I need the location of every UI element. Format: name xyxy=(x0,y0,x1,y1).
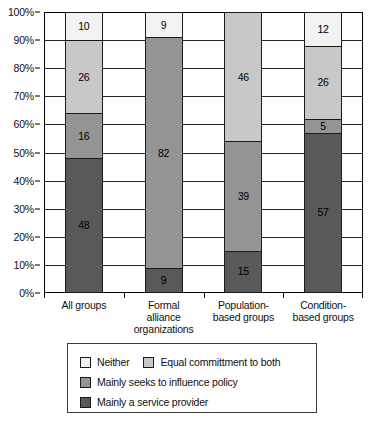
bar-segment[interactable]: 15 xyxy=(224,251,262,293)
bars-layer: 4816261098291539465752612 xyxy=(44,12,363,293)
bar-segment[interactable]: 9 xyxy=(145,12,183,37)
bar-stack: 5752612 xyxy=(304,12,342,293)
bar-segment-value: 26 xyxy=(78,72,89,83)
bar-segment[interactable]: 12 xyxy=(304,12,342,46)
bar-segment-value: 82 xyxy=(158,148,169,159)
x-tick-mark xyxy=(204,293,205,298)
bar-segment-value: 26 xyxy=(317,77,328,88)
y-tick-mark xyxy=(35,68,40,69)
y-tick-label: 90% xyxy=(14,35,34,46)
legend-swatch-service-provider xyxy=(80,397,91,408)
legend-label-neither: Neither xyxy=(97,356,129,368)
bar-segment-value: 10 xyxy=(78,21,89,32)
bar-group[interactable]: 48162610 xyxy=(65,12,103,293)
y-tick-mark xyxy=(35,180,40,181)
bar-segment-value: 15 xyxy=(238,266,249,277)
y-tick-mark xyxy=(35,96,40,97)
y-tick-label: 40% xyxy=(14,175,34,186)
x-tick-mark xyxy=(283,293,284,298)
bar-stack: 48162610 xyxy=(65,12,103,293)
y-tick-label: 60% xyxy=(14,119,34,130)
bar-segment[interactable]: 26 xyxy=(304,46,342,119)
bar-segment[interactable]: 82 xyxy=(145,37,183,267)
bar-segment-value: 12 xyxy=(317,24,328,35)
bar-segment[interactable]: 9 xyxy=(145,268,183,293)
x-axis-label: Condition-based groups xyxy=(283,299,363,323)
y-tick-mark xyxy=(35,40,40,41)
bar-segment[interactable]: 10 xyxy=(65,12,103,40)
legend-label-influence-policy: Mainly seeks to influence policy xyxy=(97,376,238,388)
legend-swatch-equal-commitment xyxy=(143,357,154,368)
x-tick-mark xyxy=(362,293,363,298)
bar-group[interactable]: 5752612 xyxy=(304,12,342,293)
legend-entry-service-provider: Mainly a service provider xyxy=(80,396,208,408)
legend-entry-neither: Neither xyxy=(80,356,129,368)
y-tick-label: 100% xyxy=(8,7,34,18)
x-tick-mark xyxy=(44,293,45,298)
legend-entry-equal-commitment: Equal committment to both xyxy=(143,356,280,368)
y-tick-label: 80% xyxy=(14,63,34,74)
bar-segment-value: 16 xyxy=(78,131,89,142)
chart-legend: Neither Equal committment to both Mainly… xyxy=(67,343,317,413)
y-tick-label: 10% xyxy=(14,259,34,270)
y-axis: 0%10%20%30%40%50%60%70%80%90%100% xyxy=(0,12,40,293)
bar-segment[interactable]: 26 xyxy=(65,40,103,113)
stacked-bar-chart-figure: 0%10%20%30%40%50%60%70%80%90%100% 481626… xyxy=(0,0,375,430)
bar-group[interactable]: 9829 xyxy=(145,12,183,293)
y-tick-mark xyxy=(35,152,40,153)
legend-entry-influence-policy: Mainly seeks to influence policy xyxy=(80,376,238,388)
legend-label-service-provider: Mainly a service provider xyxy=(97,396,208,408)
bar-segment-value: 39 xyxy=(238,191,249,202)
bar-segment-value: 5 xyxy=(320,121,326,132)
bar-segment[interactable]: 5 xyxy=(304,119,342,133)
y-tick-label: 50% xyxy=(14,147,34,158)
legend-label-equal-commitment: Equal committment to both xyxy=(160,356,280,368)
y-tick-label: 20% xyxy=(14,231,34,242)
bar-segment[interactable]: 16 xyxy=(65,113,103,158)
bar-stack: 153946 xyxy=(224,12,262,293)
x-axis-ticks xyxy=(44,293,363,298)
y-tick-label: 30% xyxy=(14,203,34,214)
bar-segment-value: 48 xyxy=(78,220,89,231)
y-tick-label: 0% xyxy=(19,288,34,299)
y-tick-mark xyxy=(35,293,40,294)
bar-segment[interactable]: 46 xyxy=(224,12,262,141)
bar-segment[interactable]: 57 xyxy=(304,133,342,293)
bar-segment-value: 9 xyxy=(161,20,167,31)
y-tick-mark xyxy=(35,236,40,237)
bar-segment-value: 9 xyxy=(161,275,167,286)
bar-group[interactable]: 153946 xyxy=(224,12,262,293)
y-tick-mark xyxy=(35,208,40,209)
y-tick-mark xyxy=(35,12,40,13)
x-axis-label: Formalallianceorganizations xyxy=(124,299,204,335)
y-tick-label: 70% xyxy=(14,91,34,102)
legend-row-middle: Mainly seeks to influence policy xyxy=(80,373,316,391)
bar-segment[interactable]: 48 xyxy=(65,158,103,293)
legend-row-top: Neither Equal committment to both xyxy=(80,353,316,371)
x-axis-label: All groups xyxy=(44,299,124,311)
bar-stack: 9829 xyxy=(145,12,183,293)
x-axis-labels: All groupsFormalallianceorganizationsPop… xyxy=(44,299,363,341)
legend-swatch-neither xyxy=(80,357,91,368)
bar-segment-value: 46 xyxy=(238,72,249,83)
x-tick-mark xyxy=(124,293,125,298)
x-axis-label: Population-based groups xyxy=(204,299,284,323)
legend-swatch-influence-policy xyxy=(80,377,91,388)
y-tick-mark xyxy=(35,264,40,265)
legend-row-bottom: Mainly a service provider xyxy=(80,393,316,411)
bar-segment[interactable]: 39 xyxy=(224,141,262,251)
bar-segment-value: 57 xyxy=(317,207,328,218)
y-tick-mark xyxy=(35,124,40,125)
